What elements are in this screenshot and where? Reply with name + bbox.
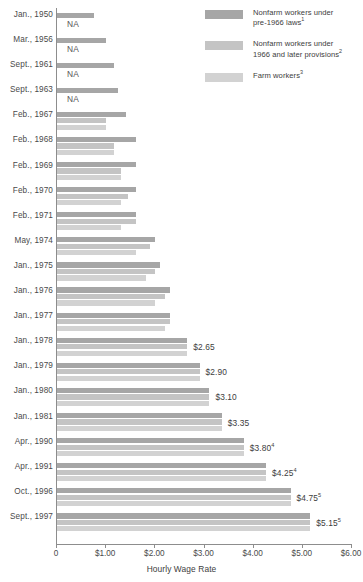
category-label: Jan., 1978 [0,336,53,345]
x-axis: 0$1.00$2.00$3.00$4.00$5.00$6.00 Hourly W… [0,544,363,582]
plot-area: Jan., 1950NAMar., 1956NASept., 1961NASep… [0,8,363,546]
category-label: Jan., 1950 [0,10,53,19]
x-axis-tick-label: 0 [54,549,59,558]
bar-row: Feb., 1967 [0,108,363,133]
bar-row: Jan., 1980$3.10 [0,384,363,409]
bar-nonfarm-workers-under-pre-1966-laws [57,388,209,393]
category-label: Feb., 1967 [0,110,53,119]
category-label: Feb., 1970 [0,186,53,195]
category-label: Sept., 1963 [0,85,53,94]
wage-rate-bar-chart: Nonfarm workers underpre-1966 laws1Nonfa… [0,0,363,582]
x-axis-tick-label: $6.00 [341,549,362,558]
bar-value-label: $4.254 [272,468,297,478]
category-label: Jan., 1975 [0,261,53,270]
bar-nonfarm-workers-under-pre-1966-laws [57,112,126,117]
bar-row: Sept., 1961NA [0,58,363,83]
bar-row: Apr., 1991$4.254 [0,460,363,485]
bar-nonfarm-workers-under-pre-1966-laws [57,313,170,318]
bar-row: Jan., 1976 [0,284,363,309]
bar-nonfarm-workers-under-1966-and-later-provisions [57,319,170,324]
bar-farm-workers [57,526,310,531]
bar-nonfarm-workers-under-pre-1966-laws [57,488,291,493]
bar-farm-workers [57,175,121,180]
x-axis-tick [204,544,205,548]
bar-row: Feb., 1971 [0,209,363,234]
bar-nonfarm-workers-under-pre-1966-laws [57,13,94,18]
bar-farm-workers [57,275,146,280]
bar-nonfarm-workers-under-pre-1966-laws [57,63,114,68]
bar-row: Feb., 1968 [0,133,363,158]
bar-nonfarm-workers-under-1966-and-later-provisions [57,269,155,274]
bar-nonfarm-workers-under-pre-1966-laws [57,463,266,468]
bar-rows: Jan., 1950NAMar., 1956NASept., 1961NASep… [0,8,363,535]
bar-value-label: $2.90 [206,367,227,377]
bar-nonfarm-workers-under-1966-and-later-provisions [57,419,222,424]
bar-nonfarm-workers-under-pre-1966-laws [57,338,187,343]
category-label: Mar., 1956 [0,35,53,44]
bar-nonfarm-workers-under-pre-1966-laws [57,287,170,292]
x-axis-tick [56,544,57,548]
bar-nonfarm-workers-under-1966-and-later-provisions [57,394,209,399]
category-label: Sept., 1997 [0,512,53,521]
bar-value-label: $4.755 [297,493,322,503]
bar-row: May, 1974 [0,234,363,259]
bar-nonfarm-workers-under-pre-1966-laws [57,438,244,443]
bar-farm-workers [57,501,291,506]
bar-farm-workers [57,451,244,456]
bar-row: Jan., 1978$2.65 [0,334,363,359]
category-label: Oct., 1996 [0,487,53,496]
bar-nonfarm-workers-under-pre-1966-laws [57,262,160,267]
category-label: Feb., 1969 [0,161,53,170]
x-axis-tick-label: $3.00 [193,549,214,558]
bar-nonfarm-workers-under-1966-and-later-provisions [57,369,200,374]
category-label: Feb., 1971 [0,211,53,220]
bar-row: Apr., 1990$3.804 [0,435,363,460]
bar-value-label: $5.155 [316,518,341,528]
x-axis-tick-label: $5.00 [292,549,313,558]
category-label: Feb., 1968 [0,135,53,144]
bar-row: Sept., 1997$5.155 [0,510,363,535]
category-label: Sept., 1961 [0,60,53,69]
bar-nonfarm-workers-under-1966-and-later-provisions [57,445,244,450]
bar-nonfarm-workers-under-pre-1966-laws [57,88,118,93]
category-label: Jan., 1976 [0,286,53,295]
bar-nonfarm-workers-under-1966-and-later-provisions [57,219,136,224]
x-axis-tick [154,544,155,548]
bar-nonfarm-workers-under-pre-1966-laws [57,237,155,242]
bar-group [57,510,357,539]
bar-nonfarm-workers-under-1966-and-later-provisions [57,344,187,349]
category-label: Jan., 1977 [0,311,53,320]
bar-nonfarm-workers-under-1966-and-later-provisions [57,118,106,123]
category-label: Jan., 1980 [0,386,53,395]
na-marker: NA [67,94,79,104]
x-axis-tick-label: $1.00 [95,549,116,558]
bar-nonfarm-workers-under-1966-and-later-provisions [57,194,128,199]
bar-row: Sept., 1963NA [0,83,363,108]
na-marker: NA [67,69,79,79]
bar-nonfarm-workers-under-1966-and-later-provisions [57,168,121,173]
bar-row: Jan., 1975 [0,259,363,284]
bar-nonfarm-workers-under-1966-and-later-provisions [57,294,165,299]
category-label: May, 1974 [0,236,53,245]
bar-nonfarm-workers-under-1966-and-later-provisions [57,143,114,148]
x-axis-tick [351,544,352,548]
bar-row: Jan., 1981$3.35 [0,410,363,435]
category-label: Jan., 1981 [0,412,53,421]
bar-farm-workers [57,376,200,381]
x-axis-tick [105,544,106,548]
bar-row: Jan., 1950NA [0,8,363,33]
bar-nonfarm-workers-under-1966-and-later-provisions [57,470,266,475]
bar-farm-workers [57,426,222,431]
bar-farm-workers [57,300,155,305]
bar-nonfarm-workers-under-pre-1966-laws [57,363,200,368]
bar-nonfarm-workers-under-1966-and-later-provisions [57,495,291,500]
category-label: Jan., 1979 [0,361,53,370]
bar-farm-workers [57,200,121,205]
na-marker: NA [67,44,79,54]
x-axis-title: Hourly Wage Rate [0,564,363,574]
bar-farm-workers [57,225,121,230]
bar-farm-workers [57,150,114,155]
bar-farm-workers [57,250,136,255]
bar-farm-workers [57,125,106,130]
bar-nonfarm-workers-under-pre-1966-laws [57,38,106,43]
